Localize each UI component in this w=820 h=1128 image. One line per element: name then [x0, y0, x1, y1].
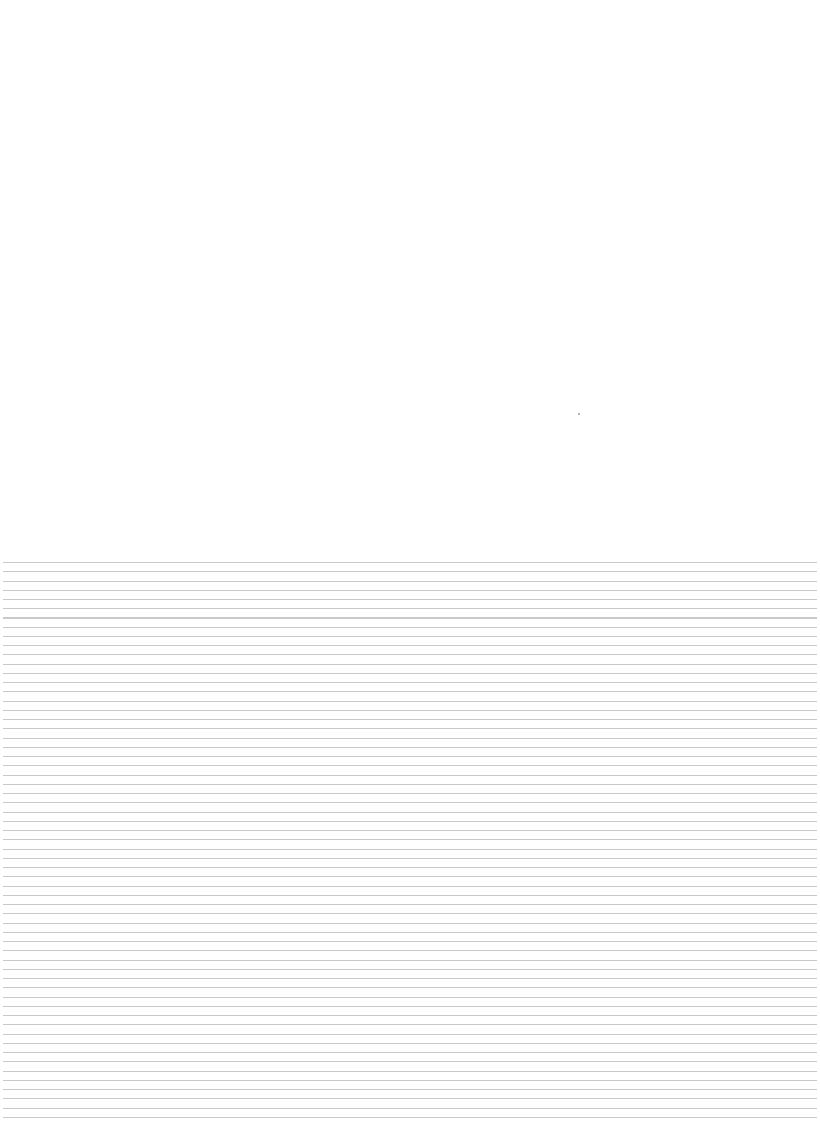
- stray-mark: [578, 413, 580, 415]
- ruled-lines-area: [3, 562, 817, 1118]
- blank-page-area: [0, 0, 820, 556]
